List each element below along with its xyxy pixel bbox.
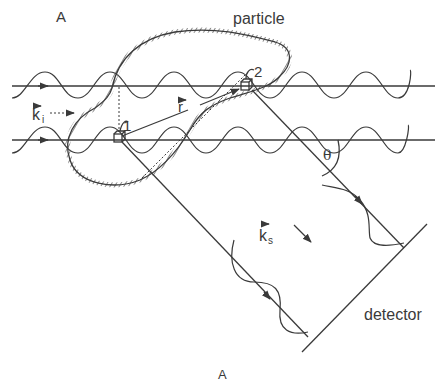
scatterer-1-label: 1	[123, 117, 131, 134]
detector-plane	[302, 224, 427, 352]
svg-text:s: s	[268, 235, 273, 246]
scattered-ray-from-1	[122, 142, 308, 337]
bottom-label-a: A	[218, 367, 227, 382]
svg-text:i: i	[42, 114, 44, 125]
scattering-diagram: 1 2 r θ k i k s A	[0, 0, 444, 392]
incident-wavevector-label: k i	[32, 106, 74, 125]
theta-label: θ	[323, 147, 331, 163]
incident-beam-upper	[12, 70, 435, 98]
top-label-a: A	[56, 8, 66, 25]
particle-label: particle	[233, 10, 285, 27]
svg-text:k: k	[259, 227, 268, 244]
incident-beam-lower	[12, 125, 435, 153]
scattered-wavevector-label: k s	[259, 224, 311, 246]
scatterer-2-label: 2	[254, 63, 262, 80]
detector-label: detector	[364, 306, 422, 323]
svg-text:k: k	[32, 106, 41, 123]
scattered-ray-from-2	[252, 90, 404, 248]
